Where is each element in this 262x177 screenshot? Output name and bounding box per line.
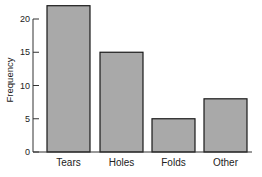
x-category-label: Folds [161,157,185,168]
bar-chart: 05101520 TearsHolesFoldsOther Frequency [0,0,262,177]
bar-other [204,99,247,152]
y-tick-label: 20 [20,14,30,24]
x-category-label: Tears [56,157,80,168]
bar-folds [152,119,195,152]
bars [47,6,247,152]
x-axis-labels: TearsHolesFoldsOther [56,157,238,168]
y-axis-title: Frequency [4,57,15,102]
y-tick-label: 5 [25,114,30,124]
y-axis-ticks: 05101520 [20,14,39,157]
x-category-label: Other [213,157,239,168]
y-tick-label: 0 [25,147,30,157]
y-tick-label: 15 [20,47,30,57]
bar-holes [100,52,143,152]
bar-tears [47,6,90,152]
x-category-label: Holes [109,157,135,168]
y-tick-label: 10 [20,81,30,91]
